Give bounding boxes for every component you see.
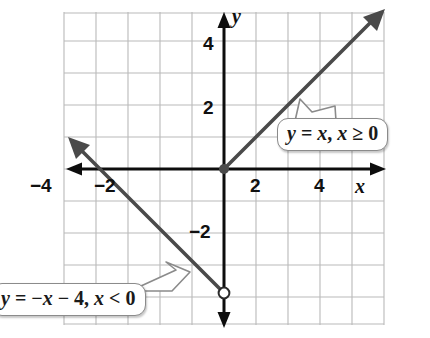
line-y-equals-neg-x-minus-4 (68, 137, 229, 298)
x-tick-label-pos2: 2 (250, 176, 261, 195)
y-axis-name: y (232, 6, 241, 26)
y-tick-label-pos2: 2 (203, 98, 214, 117)
callout-lower-lhs: y (1, 287, 10, 309)
callout-lower: y = −x − 4, x < 0 (0, 283, 146, 316)
callout-lower-cond-var: x (94, 287, 104, 309)
callout-lower-cond-rest: < 0 (104, 287, 135, 309)
callout-lower-tail-text: − 4 (53, 287, 84, 309)
x-tick-label-pos4: 4 (314, 176, 325, 195)
x-axis-name: x (355, 176, 365, 196)
callout-upper-cond-rest: ≥ 0 (347, 122, 378, 144)
callout-upper-comma: , (327, 122, 337, 144)
y-tick-label-pos4: 4 (203, 34, 214, 53)
callout-upper-eq: = (296, 122, 317, 144)
callout-upper-rhs: x (317, 122, 327, 144)
x-tick-label-neg2: −2 (94, 176, 116, 195)
graph-figure: −4 −2 2 4 4 2 −2 y x y = x, x ≥ 0 y = −x… (0, 0, 430, 338)
callout-lower-eq: = − (10, 287, 43, 309)
y-tick-label-neg2: −2 (189, 222, 211, 241)
callout-lower-comma: , (84, 287, 94, 309)
callout-upper: y = x, x ≥ 0 (277, 118, 388, 151)
callout-upper-cond-var: x (337, 122, 347, 144)
x-tick-label-neg4: −4 (30, 176, 52, 195)
callout-upper-lhs: y (287, 122, 296, 144)
callout-lower-rhs: x (43, 287, 53, 309)
